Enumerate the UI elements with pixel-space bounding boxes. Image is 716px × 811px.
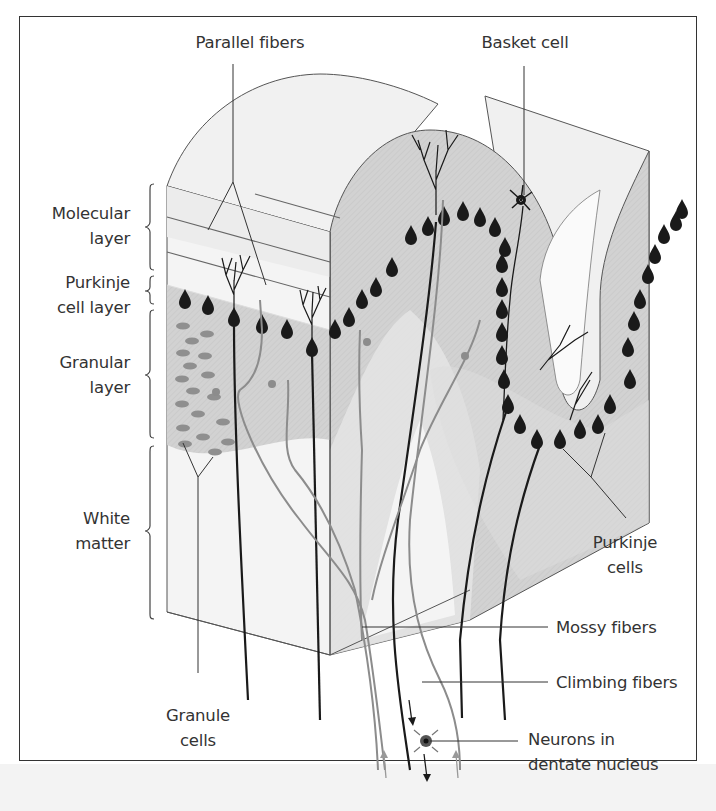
label-purkinje-cell-layer: Purkinje cell layer [30, 270, 130, 320]
label-purkinje-cells: Purkinje cells [580, 530, 670, 580]
label-parallel-fibers: Parallel fibers [180, 30, 320, 55]
label-granule-cells: Granule cells [148, 703, 248, 753]
label-granular-layer: Granular layer [30, 350, 130, 400]
label-basket-cell: Basket cell [470, 30, 580, 55]
label-climbing-fibers: Climbing fibers [556, 670, 706, 695]
tissue-block [167, 74, 649, 655]
label-mossy-fibers: Mossy fibers [556, 615, 696, 640]
label-molecular-layer: Molecular layer [30, 201, 130, 251]
label-white-matter: White matter [30, 506, 130, 556]
label-neurons-dentate-nucleus: Neurons in dentate nucleus [528, 727, 688, 777]
layer-braces [145, 184, 154, 619]
